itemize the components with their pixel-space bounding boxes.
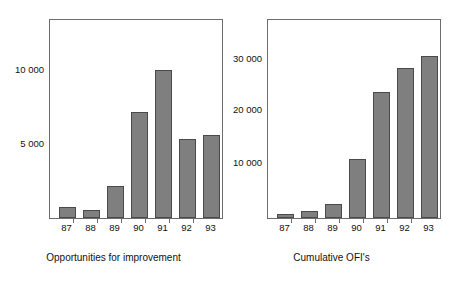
y-axis-label: 5 000 (20, 139, 44, 149)
bar-90 (349, 159, 366, 218)
x-axis-label: 89 (101, 222, 128, 234)
x-axis-label: 90 (125, 222, 152, 234)
x-axis-label: 91 (149, 222, 176, 234)
y-axis-labels-right: 30 000 20 000 10 000 (218, 0, 262, 281)
bar-91 (155, 70, 172, 218)
x-axis-label: 91 (367, 222, 394, 234)
bar-92 (397, 68, 414, 218)
x-axis-labels-left: 87 88 89 90 91 92 93 (49, 222, 223, 236)
x-axis-labels-right: 87 88 89 90 91 92 93 (267, 222, 441, 236)
bars-layer-left (50, 20, 222, 218)
bar-89 (325, 204, 342, 218)
bar-87 (59, 207, 76, 218)
bar-90 (131, 112, 148, 218)
x-axis-label: 90 (343, 222, 370, 234)
x-axis-label: 89 (319, 222, 346, 234)
dual-bar-chart-figure: 10 000 5 000 87 88 89 90 91 (0, 0, 455, 281)
y-axis-label: 10 000 (15, 65, 44, 75)
x-axis-label: 87 (271, 222, 298, 234)
x-axis-label: 92 (391, 222, 418, 234)
x-axis-label: 92 (173, 222, 200, 234)
bar-91 (373, 92, 390, 218)
plot-area-right (267, 19, 441, 219)
chart-panel-cumulative: 30 000 20 000 10 000 87 88 89 90 (218, 0, 445, 281)
y-axis-label: 10 000 (233, 158, 262, 168)
x-axis-label: 88 (295, 222, 322, 234)
y-axis-label: 20 000 (233, 105, 262, 115)
x-axis-label: 88 (77, 222, 104, 234)
plot-area-left (49, 19, 223, 219)
bar-92 (179, 139, 196, 218)
bar-88 (83, 210, 100, 218)
bar-88 (301, 211, 318, 218)
y-axis-label: 30 000 (233, 54, 262, 64)
bar-93 (421, 56, 438, 218)
bar-89 (107, 186, 124, 218)
chart-panel-opportunities: 10 000 5 000 87 88 89 90 91 (0, 0, 227, 281)
chart-caption-left: Opportunities for improvement (0, 252, 227, 263)
bar-87 (277, 214, 294, 218)
y-axis-labels-left: 10 000 5 000 (0, 0, 44, 281)
chart-caption-right: Cumulative OFI's (218, 252, 445, 263)
x-axis-label: 87 (53, 222, 80, 234)
bars-layer-right (268, 20, 440, 218)
x-axis-label: 93 (415, 222, 442, 234)
